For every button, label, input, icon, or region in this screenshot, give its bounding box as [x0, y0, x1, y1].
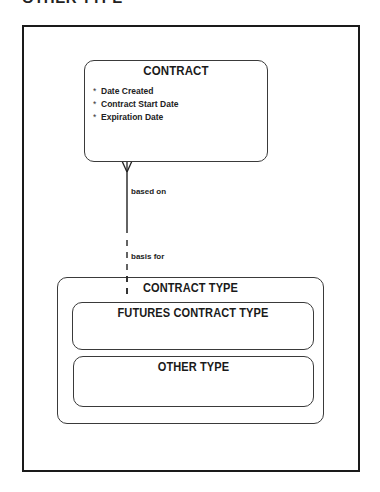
relationship-line-overlay: [0, 0, 380, 492]
